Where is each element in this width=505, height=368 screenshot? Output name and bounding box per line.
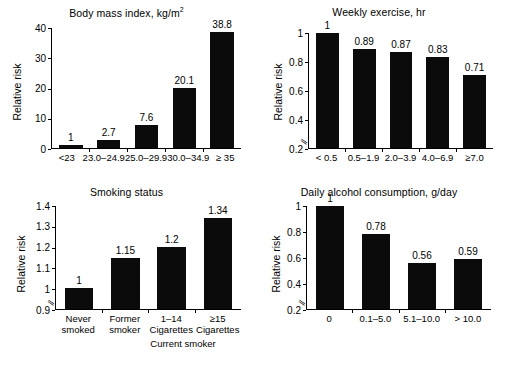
x-axis-line-exercise [308,148,493,149]
bar[interactable]: 0.87 [390,52,413,148]
y-tick-mark [48,149,51,150]
bar-slot: 2.7 [90,28,128,148]
x-axis-category-line: Never [55,313,102,324]
panel-title-bmi-text: Body mass index, kg/m [69,7,180,19]
bar-slot: 0.83 [419,33,456,148]
bar[interactable]: 1.2 [157,247,186,309]
bar-slot: 0.59 [445,206,491,309]
bar-value-label: 1.2 [165,235,179,245]
x-axis-category-label: Formersmoker [102,313,149,335]
bar-value-label: 1 [68,133,74,143]
panel-smoking-status: Smoking status Relative risk 11.151.21.3… [0,184,253,368]
y-tick-label: 1.3 [36,222,52,232]
y-tick-mark [305,91,308,92]
y-tick-label: 1.4 [36,202,52,212]
bar-value-label: 1 [76,276,82,286]
bar-value-label: 0.56 [412,251,431,261]
y-tick-label: 0.6 [289,87,305,97]
y-tick-mark [48,89,51,90]
bar-series-alcohol: 10.780.560.59 [307,206,491,309]
panel-weekly-exercise: Weekly exercise, hr Relative risk 10.890… [253,0,505,184]
panel-title-exercise-text: Weekly exercise, hr [332,6,425,18]
bar[interactable]: 0.83 [426,57,449,148]
bar-series-smoking: 11.151.21.34 [56,206,241,309]
x-axis-labels-exercise: < 0.50.5–1.92.0–3.94.0–6.9≥7.0 [308,152,493,163]
x-axis-category-label: ≥15Cigarettes [195,313,242,335]
bar-slot: 0.89 [346,33,383,148]
x-axis-category-label: 1–14Cigarettes [148,313,195,335]
x-axis-category-label: <23 [51,152,83,163]
x-axis-category-line: smoker [102,324,149,335]
bar-slot: 1 [52,28,90,148]
bar[interactable]: 1 [316,33,339,148]
x-axis-group-label-current-smoker: Current smoker [125,338,241,349]
bar[interactable]: 7.6 [135,125,158,148]
x-axis-category-label: 2.0–3.9 [382,152,419,163]
bar[interactable]: 1 [316,206,345,309]
x-axis-category-label: ≥ 35 [209,152,241,163]
x-axis-category-line: Cigarettes [148,324,195,335]
bar[interactable]: 20.1 [173,88,196,148]
panel-daily-alcohol: Daily alcohol consumption, g/day Relativ… [253,184,505,368]
bar[interactable]: 1 [65,288,94,309]
x-axis-category-label: 5.1–10.0 [399,313,445,324]
bar-value-label: 7.6 [140,113,154,123]
bar[interactable]: 0.78 [362,234,391,309]
x-axis-category-line: Former [102,313,149,324]
y-axis-label-exercise: Relative risk [272,57,284,127]
y-tick-mark [303,258,306,259]
y-tick-mark [305,33,308,34]
bar[interactable]: 0.89 [353,49,376,148]
bar-value-label: 1.34 [208,206,227,216]
x-axis-category-label: 25.0–29.9 [125,152,167,163]
bar-value-label: 1.15 [116,246,135,256]
bar[interactable]: 0.56 [408,263,437,309]
bar[interactable]: 38.8 [210,32,233,148]
x-axis-category-label: 4.0–6.9 [419,152,456,163]
bar[interactable]: 1 [59,145,82,148]
bar-slot: 1 [56,206,102,309]
bar[interactable]: 1.15 [111,258,140,310]
x-axis-category-line: Cigarettes [195,324,242,335]
y-tick-mark [52,227,55,228]
bar-slot: 1.15 [102,206,148,309]
y-tick-label: 0.8 [287,228,303,238]
bar[interactable]: 2.7 [97,140,120,148]
x-axis-category-label: 23.0–24.9 [83,152,125,163]
x-axis-category-label: ≥7.0 [456,152,493,163]
y-tick-label: 0.8 [289,58,305,68]
y-tick-label: 40 [35,24,48,34]
y-tick-label: 30 [35,54,48,64]
bar-value-label: 1 [325,21,331,31]
y-tick-label: 1 [295,202,303,212]
plot-area-exercise: 10.890.870.830.71 0.20.40.60.81 // [308,33,493,149]
bar-slot: 20.1 [165,28,203,148]
x-axis-category-label: 30.0–34.9 [167,152,209,163]
x-axis-category-line: smoked [55,324,102,335]
bar[interactable]: 1.34 [204,218,233,309]
bar[interactable]: 0.59 [454,259,483,309]
panel-title-alcohol: Daily alcohol consumption, g/day [253,186,505,198]
y-tick-mark [52,248,55,249]
bar-value-label: 0.87 [391,40,410,50]
panel-title-alcohol-text: Daily alcohol consumption, g/day [301,186,458,198]
y-tick-label: 0.2 [289,145,305,155]
bar-value-label: 2.7 [102,128,116,138]
y-tick-mark [48,119,51,120]
y-tick-label: 0.6 [287,254,303,264]
panel-body-mass-index: Body mass index, kg/m2 Relative risk 12.… [0,0,253,184]
y-tick-label: 0.2 [287,306,303,316]
x-axis-category-line: 1–14 [148,313,195,324]
bar-value-label: 0.71 [465,63,484,73]
bar-series-exercise: 10.890.870.830.71 [309,33,493,148]
y-tick-mark [303,310,306,311]
y-tick-label: 0.9 [36,306,52,316]
x-axis-category-label: < 0.5 [308,152,345,163]
y-tick-mark [305,149,308,150]
plot-area-smoking: 11.151.21.34 0.911.11.21.31.4 // [55,206,241,310]
bar-slot: 38.8 [203,28,241,148]
x-axis-category-label: 0.1–5.0 [352,313,398,324]
panel-title-bmi: Body mass index, kg/m2 [0,6,253,19]
y-tick-mark [303,232,306,233]
bar[interactable]: 0.71 [463,75,486,148]
